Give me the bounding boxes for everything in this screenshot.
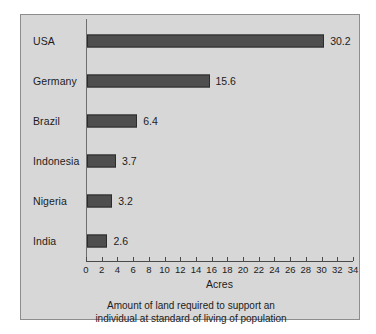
bar xyxy=(87,75,210,88)
x-axis-title: Acres xyxy=(86,278,353,290)
x-tick-label: 14 xyxy=(191,264,202,275)
bar xyxy=(87,235,107,248)
bar-value-label: 2.6 xyxy=(113,235,128,247)
x-tick-label: 28 xyxy=(301,264,312,275)
x-tick-mark xyxy=(274,257,275,261)
bar-value-label: 3.7 xyxy=(122,155,137,167)
bar-row: USA30.2 xyxy=(21,21,361,61)
x-tick-mark xyxy=(196,257,197,261)
x-tick-mark xyxy=(165,257,166,261)
x-tick-label: 4 xyxy=(115,264,120,275)
plot-area: USA30.2Germany15.6Brazil6.4Indonesia3.7N… xyxy=(21,15,361,267)
x-tick-mark xyxy=(322,257,323,261)
bar-value-label: 30.2 xyxy=(330,35,350,47)
category-label: Nigeria xyxy=(33,195,67,207)
x-tick-mark xyxy=(212,257,213,261)
x-tick-mark xyxy=(290,257,291,261)
x-tick-label: 0 xyxy=(83,264,88,275)
x-axis-line xyxy=(86,261,353,262)
x-tick-label: 10 xyxy=(159,264,170,275)
x-tick-mark xyxy=(149,257,150,261)
x-tick-mark xyxy=(259,257,260,261)
category-label: USA xyxy=(33,35,55,47)
category-label: Brazil xyxy=(33,115,60,127)
bar xyxy=(87,195,112,208)
bar xyxy=(87,35,324,48)
x-tick-label: 16 xyxy=(206,264,217,275)
bar-value-label: 15.6 xyxy=(216,75,236,87)
bar xyxy=(87,115,137,128)
x-tick-mark xyxy=(117,257,118,261)
category-label: India xyxy=(33,235,56,247)
chart-caption: Amount of land required to support an in… xyxy=(21,299,361,325)
caption-line-2: individual at standard of living of popu… xyxy=(21,312,361,325)
x-tick-label: 24 xyxy=(269,264,280,275)
bar xyxy=(87,155,116,168)
caption-line-1: Amount of land required to support an xyxy=(21,299,361,312)
category-label: Indonesia xyxy=(33,155,79,167)
x-tick-label: 20 xyxy=(238,264,249,275)
x-tick-mark xyxy=(337,257,338,261)
x-tick-label: 6 xyxy=(130,264,135,275)
x-tick-label: 34 xyxy=(348,264,359,275)
x-tick-mark xyxy=(180,257,181,261)
chart-figure: USA30.2Germany15.6Brazil6.4Indonesia3.7N… xyxy=(20,14,360,320)
x-tick-mark xyxy=(306,257,307,261)
x-tick-mark xyxy=(86,257,87,261)
x-tick-label: 8 xyxy=(146,264,151,275)
bar-row: India2.6 xyxy=(21,221,361,261)
bar-value-label: 3.2 xyxy=(118,195,133,207)
x-tick-label: 12 xyxy=(175,264,186,275)
x-tick-mark xyxy=(133,257,134,261)
bar-value-label: 6.4 xyxy=(143,115,158,127)
bar-row: Nigeria3.2 xyxy=(21,181,361,221)
x-tick-mark xyxy=(227,257,228,261)
x-tick-label: 18 xyxy=(222,264,233,275)
x-tick-label: 22 xyxy=(253,264,264,275)
x-tick-label: 2 xyxy=(99,264,104,275)
x-tick-mark xyxy=(243,257,244,261)
bar-row: Indonesia3.7 xyxy=(21,141,361,181)
bar-row: Brazil6.4 xyxy=(21,101,361,141)
x-tick-label: 26 xyxy=(285,264,296,275)
x-tick-label: 30 xyxy=(316,264,327,275)
x-tick-label: 32 xyxy=(332,264,343,275)
category-label: Germany xyxy=(33,75,77,87)
x-tick-mark xyxy=(353,257,354,261)
bar-row: Germany15.6 xyxy=(21,61,361,101)
x-tick-mark xyxy=(102,257,103,261)
